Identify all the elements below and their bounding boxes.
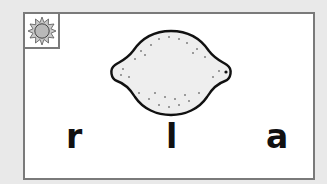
letter-card: r l a [23,12,315,180]
letter-option-2[interactable]: l [166,120,177,153]
letter-option-1[interactable]: r [66,120,82,153]
sun-icon-box [25,14,60,49]
sun-icon [27,16,57,46]
lemon-image [109,27,233,119]
letter-option-3[interactable]: a [266,120,288,153]
